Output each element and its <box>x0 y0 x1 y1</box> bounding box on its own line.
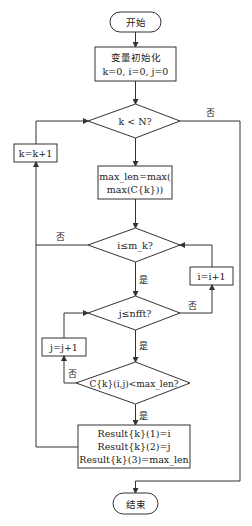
max-len-box: max_len=max( max(C{k})) <box>98 166 172 199</box>
arrow-incj-to-condj <box>64 313 88 338</box>
condj-yes-label: 是 <box>139 341 148 351</box>
end-terminal: 结束 <box>113 493 158 514</box>
inc-k-label: k=k+1 <box>19 148 52 159</box>
cond-k-diamond: k < N? <box>88 104 180 138</box>
arrow-inci-to-condi <box>180 245 212 267</box>
start-terminal: 开始 <box>110 12 161 32</box>
result-line1: Result{k}(1)=i <box>98 428 171 439</box>
cond-j-diamond: j≤nfft? <box>88 296 180 330</box>
arrow-inck-to-condk <box>36 121 88 144</box>
inc-k-box: k=k+1 <box>14 144 57 162</box>
result-line3: Result{k}(3)=max_len <box>79 454 188 466</box>
condi-yes-label: 是 <box>139 275 148 285</box>
condk-no-label: 否 <box>206 108 215 118</box>
cond-i-diamond: i≤m_k? <box>88 228 180 262</box>
condc-no-label: 否 <box>68 369 77 379</box>
flowchart: 开始 变量初始化 k=0, i=0, j=0 k < N? 否 k=k+1 ma… <box>0 0 252 526</box>
inc-i-label: i=i+1 <box>197 271 225 282</box>
init-line1: 变量初始化 <box>111 52 161 63</box>
cond-k-label: k < N? <box>118 116 151 127</box>
cond-c-diamond: C{k}(i,j)<max_len? <box>76 362 190 404</box>
condj-no-label: 否 <box>188 301 197 311</box>
init-box: 变量初始化 k=0, i=0, j=0 <box>95 47 176 81</box>
inc-i-box: i=i+1 <box>190 267 233 285</box>
cond-c-label: C{k}(i,j)<max_len? <box>89 379 178 390</box>
max-len-line1: max_len=max( <box>99 171 171 183</box>
cond-i-label: i≤m_k? <box>117 240 153 252</box>
cond-j-label: j≤nfft? <box>118 308 152 319</box>
max-len-line2: max(C{k})) <box>107 184 163 195</box>
condi-no-label: 否 <box>56 232 65 242</box>
inc-j-label: j=j+1 <box>49 342 78 353</box>
result-line2: Result{k}(2)=j <box>98 441 171 452</box>
end-label: 结束 <box>126 499 146 510</box>
start-label: 开始 <box>126 17 146 28</box>
condc-yes-label: 是 <box>139 411 148 421</box>
init-line2: k=0, i=0, j=0 <box>103 66 169 77</box>
result-box: Result{k}(1)=i Result{k}(2)=j Result{k}(… <box>78 425 190 468</box>
inc-j-box: j=j+1 <box>42 338 86 356</box>
